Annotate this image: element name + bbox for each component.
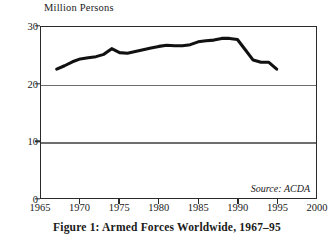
x-tick-mark-1985 [198,199,199,204]
y-tick-label-10: 10 [0,136,38,147]
x-tick-mark-1975 [118,199,119,204]
x-tick-label-2000: 2000 [307,202,328,213]
y-tick-mark-30 [35,25,40,26]
plot-area: Source: ACDA [40,26,317,199]
x-tick-mark-1990 [237,199,238,204]
y-tick-label-30: 30 [0,21,38,32]
y-tick-label-20: 20 [0,78,38,89]
line-chart-svg [41,27,316,198]
figure-caption: Figure 1: Armed Forces Worldwide, 1967–9… [0,221,334,233]
x-tick-label-1965: 1965 [30,202,51,213]
y-tick-mark-10 [35,141,40,142]
source-note: Source: ACDA [251,183,310,194]
y-tick-mark-20 [35,83,40,84]
y-tick-mark-0 [35,198,40,199]
x-tick-mark-1970 [79,199,80,204]
x-tick-mark-1980 [158,199,159,204]
data-series-line [57,38,277,69]
figure-container: Million Persons Source: ACDA 0102030 196… [0,0,334,241]
x-tick-mark-1995 [277,199,278,204]
y-axis-caption: Million Persons [44,2,114,13]
